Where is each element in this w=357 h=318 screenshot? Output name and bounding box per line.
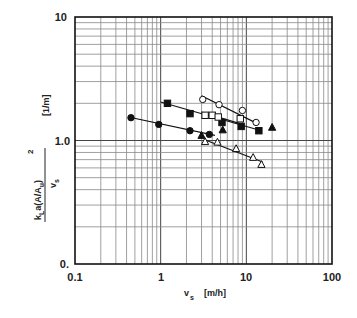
filled-circle-marker bbox=[187, 128, 193, 134]
open-triangle-marker bbox=[214, 138, 221, 145]
svg-text:s: s bbox=[190, 294, 194, 301]
x-axis-label: v s [m/h] bbox=[184, 288, 226, 301]
x-tick-10: 10 bbox=[240, 271, 252, 283]
svg-text:v: v bbox=[184, 288, 189, 298]
svg-text:[m/h]: [m/h] bbox=[204, 288, 226, 298]
filled-circle-marker bbox=[206, 131, 212, 137]
open-square-marker bbox=[209, 112, 215, 118]
filled-circle-marker bbox=[156, 121, 162, 127]
filled-square-marker bbox=[187, 110, 193, 116]
open-circle-marker bbox=[216, 101, 222, 107]
y-tick-1: 1.0 bbox=[55, 135, 70, 147]
filled-square-marker bbox=[256, 128, 262, 134]
svg-text:[1/m]: [1/m] bbox=[41, 94, 51, 116]
open-circle-marker bbox=[253, 119, 259, 125]
y-axis-label: kLa(A/Au) 2 vs [1/m] bbox=[26, 94, 60, 222]
open-square-marker bbox=[215, 114, 221, 120]
filled-circle-marker bbox=[128, 114, 134, 120]
open-square-marker bbox=[237, 116, 243, 122]
x-tick-0-1: 0.1 bbox=[67, 271, 82, 283]
filled-triangle-marker bbox=[269, 123, 276, 130]
filled-square-marker bbox=[238, 123, 244, 129]
open-triangle-marker bbox=[258, 161, 265, 168]
open-circle-marker bbox=[239, 107, 245, 113]
x-tick-1: 1 bbox=[158, 271, 164, 283]
x-tick-100: 100 bbox=[323, 271, 341, 283]
filled-square-marker bbox=[164, 100, 170, 106]
svg-text:2: 2 bbox=[26, 149, 35, 154]
svg-text:vs: vs bbox=[48, 179, 60, 188]
open-circle-marker bbox=[200, 96, 206, 102]
y-tick-0-1: 0. bbox=[60, 258, 69, 270]
open-square-marker bbox=[202, 112, 208, 118]
chart-plot: 0.1 1 10 100 0. 1.0 10 v s [m/h] kLa(A/A… bbox=[0, 0, 357, 318]
y-tick-10: 10 bbox=[55, 11, 67, 23]
svg-text:kLa(A/Au): kLa(A/Au) bbox=[33, 180, 45, 220]
